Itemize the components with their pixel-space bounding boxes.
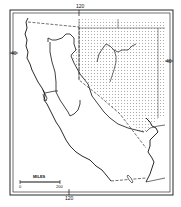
scale-bar [20,180,60,184]
longitude-label-bottom: 120 [65,196,73,201]
state-border-north [28,22,79,27]
scale-bar-end: 200 [56,185,63,189]
salton-sea [127,175,133,183]
scale-bar-start: 0 [19,185,21,189]
map-canvas [0,0,181,207]
longitude-label-top: 120 [76,4,84,9]
latitude-label-right: 40 [166,59,172,64]
stippled-region [71,19,165,133]
scale-bar-title: MILES [33,175,45,179]
shasta-feature [48,34,76,56]
latitude-label-left: 40 [11,51,17,56]
